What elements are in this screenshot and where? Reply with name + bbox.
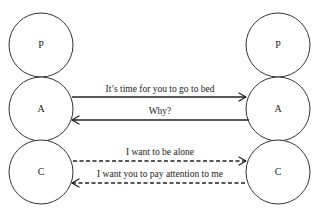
right-person: P A C (246, 13, 310, 204)
left-parent-label: P (38, 39, 44, 50)
left-adult-node: A (9, 77, 73, 141)
transaction-adult-to-adult: It’s time for you to go to bed (72, 84, 246, 101)
transaction-label: It’s time for you to go to bed (106, 84, 215, 94)
right-child-label: C (275, 166, 282, 177)
right-parent-node: P (246, 13, 310, 77)
transaction-child-reply: I want you to pay attention to me (72, 169, 247, 187)
left-parent-node: P (9, 13, 73, 77)
transaction-child-to-child: I want to be alone (73, 147, 246, 165)
left-child-node: C (9, 140, 73, 204)
left-child-label: C (38, 166, 45, 177)
left-adult-label: A (37, 103, 45, 114)
transaction-adult-reply: Why? (72, 106, 249, 124)
right-adult-node: A (246, 77, 310, 141)
left-person: P A C (9, 13, 73, 204)
right-child-node: C (246, 140, 310, 204)
right-adult-label: A (274, 103, 282, 114)
transaction-label: I want to be alone (126, 147, 194, 157)
right-parent-label: P (275, 39, 281, 50)
transaction-diagram: P A C P A C It’s time for you to go to b… (0, 0, 318, 215)
transaction-label: Why? (149, 106, 172, 116)
transaction-label: I want you to pay attention to me (97, 169, 223, 179)
